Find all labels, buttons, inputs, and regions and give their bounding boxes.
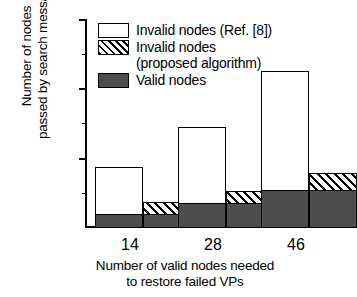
x-tick-label-28: 28 [173, 236, 253, 254]
chart-legend: Invalid nodes (Ref. [8]) Invalid nodes (… [98, 22, 334, 89]
bar-valid-ref8-46 [261, 190, 309, 228]
legend-item-invalid-ref8: Invalid nodes (Ref. [8]) [98, 22, 334, 38]
legend-swatch-open-icon [98, 23, 129, 38]
chart-figure: Number of nodes passed by search message… [0, 0, 357, 297]
legend-label-valid: Valid nodes [136, 72, 206, 88]
legend-label-invalid-proposed: Invalid nodes [136, 39, 216, 55]
legend-swatch-filled-icon [98, 73, 129, 88]
y-tick-300 [79, 19, 87, 21]
y-axis-label-line2: passed by search messages [35, 0, 51, 151]
x-axis-label-line1: Number of valid nodes needed [40, 258, 330, 274]
bar-valid-ref8-14 [95, 214, 143, 228]
y-tick-100 [79, 158, 87, 160]
legend-label-invalid-proposed-group: Invalid nodes (proposed algorithm) [136, 39, 261, 71]
y-axis-label: Number of nodes passed by search message… [19, 0, 51, 151]
x-tick-label-14: 14 [90, 236, 170, 254]
y-tick-200 [79, 88, 87, 90]
bar-valid-proposed-46 [309, 190, 357, 228]
legend-item-invalid-proposed: Invalid nodes (proposed algorithm) [98, 39, 334, 71]
x-tick-label-46: 46 [256, 236, 336, 254]
x-axis-label-line2: to restore failed VPs [40, 274, 330, 290]
x-axis-label: Number of valid nodes needed to restore … [40, 258, 330, 290]
legend-label-invalid-ref8: Invalid nodes (Ref. [8]) [136, 22, 272, 38]
legend-item-valid: Valid nodes [98, 72, 334, 88]
legend-label-invalid-proposed-sub: (proposed algorithm) [136, 55, 261, 71]
bar-valid-ref8-28 [178, 203, 226, 228]
y-axis-label-line1: Number of nodes [19, 0, 35, 151]
legend-swatch-hatched-icon [98, 40, 129, 55]
